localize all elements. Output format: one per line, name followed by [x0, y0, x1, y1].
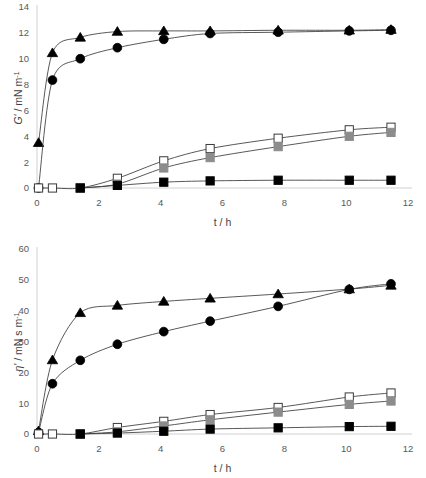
- x-tick-label: 12: [403, 443, 414, 454]
- data-point-marker: [206, 425, 214, 433]
- series-line: [80, 426, 391, 434]
- data-point-marker: [48, 430, 56, 438]
- series-filled-triangle: [33, 25, 396, 147]
- y-tick-label: 8: [24, 79, 29, 90]
- series-line: [39, 284, 391, 433]
- series-open-square: [34, 123, 395, 192]
- y-tick-label: 6: [24, 105, 29, 116]
- data-point-marker: [160, 427, 168, 435]
- data-point-marker: [47, 48, 57, 57]
- data-point-marker: [387, 422, 395, 430]
- data-point-marker: [206, 29, 215, 38]
- series-line: [80, 132, 391, 188]
- data-point-marker: [113, 181, 121, 189]
- data-point-marker: [76, 54, 85, 63]
- data-point-marker: [113, 429, 121, 437]
- x-axis-title: t / h: [214, 216, 232, 228]
- y-tick-label: 14: [18, 1, 29, 12]
- x-axis-title: t / h: [214, 462, 232, 474]
- data-point-marker: [34, 430, 42, 438]
- x-tick-label: 4: [158, 197, 163, 208]
- data-point-marker: [48, 76, 57, 85]
- data-point-marker: [206, 177, 214, 185]
- x-tick-label: 12: [403, 197, 414, 208]
- data-point-marker: [274, 28, 283, 37]
- data-point-marker: [33, 138, 43, 147]
- data-point-marker: [345, 27, 354, 36]
- data-point-marker: [48, 184, 56, 192]
- data-point-marker: [76, 184, 84, 192]
- series-filled-square: [76, 176, 395, 192]
- x-tick-label: 4: [158, 443, 163, 454]
- x-tick-label: 0: [34, 443, 39, 454]
- data-point-marker: [206, 154, 214, 162]
- data-point-marker: [274, 176, 282, 184]
- y-tick-label: 0: [24, 428, 29, 439]
- data-point-marker: [206, 317, 215, 326]
- data-point-marker: [387, 397, 395, 405]
- y-tick-label: 10: [18, 53, 29, 64]
- series-line: [39, 393, 391, 434]
- data-point-marker: [345, 423, 353, 431]
- data-point-marker: [274, 143, 282, 151]
- y-axis-title: G' / mN m-1: [12, 71, 24, 124]
- x-tick-label: 2: [96, 443, 101, 454]
- x-tick-label: 6: [220, 197, 225, 208]
- y-tick-label: 50: [18, 274, 29, 285]
- data-point-marker: [387, 279, 396, 288]
- series-filled-circle: [34, 279, 395, 436]
- series-filled-circle: [34, 26, 395, 193]
- x-tick-label: 8: [282, 197, 287, 208]
- x-tick-label: 10: [341, 197, 352, 208]
- chart-svg: 02468101214024681012t / hG' / mN m-1: [0, 0, 426, 240]
- x-tick-label: 6: [220, 443, 225, 454]
- series-open-square: [34, 389, 395, 438]
- y-tick-label: 2: [24, 157, 29, 168]
- data-point-marker: [160, 178, 168, 186]
- series-line: [80, 401, 391, 434]
- data-point-marker: [387, 26, 396, 35]
- y-tick-label: 12: [18, 27, 29, 38]
- data-point-marker: [113, 43, 122, 52]
- data-point-marker: [274, 134, 282, 142]
- data-point-marker: [75, 32, 85, 41]
- data-point-marker: [206, 416, 214, 424]
- data-point-marker: [159, 327, 168, 336]
- data-point-marker: [34, 184, 42, 192]
- series-line: [39, 30, 391, 188]
- y-tick-label: 10: [18, 398, 29, 409]
- y-tick-label: 60: [18, 243, 29, 254]
- data-point-marker: [345, 400, 353, 408]
- data-point-marker: [345, 285, 354, 294]
- y-tick-label: 40: [18, 305, 29, 316]
- x-tick-label: 2: [96, 197, 101, 208]
- data-point-marker: [345, 132, 353, 140]
- data-point-marker: [387, 128, 395, 136]
- data-point-marker: [274, 408, 282, 416]
- x-tick-label: 10: [341, 443, 352, 454]
- data-point-marker: [159, 26, 169, 35]
- series-filled-square: [76, 422, 395, 438]
- data-point-marker: [76, 356, 85, 365]
- chart-svg: 0102030405060024681012t / hη' / mN s m-1: [0, 240, 426, 478]
- data-point-marker: [160, 164, 168, 172]
- data-point-marker: [345, 176, 353, 184]
- chart-panel-bottom: 0102030405060024681012t / hη' / mN s m-1: [0, 240, 426, 478]
- data-point-marker: [387, 389, 395, 397]
- data-point-marker: [113, 340, 122, 349]
- data-point-marker: [75, 308, 85, 317]
- data-point-marker: [387, 176, 395, 184]
- data-point-marker: [48, 379, 57, 388]
- y-tick-label: 0: [24, 182, 29, 193]
- series-line: [39, 127, 391, 188]
- figure-container: 02468101214024681012t / hG' / mN m-1 010…: [0, 0, 426, 478]
- data-point-marker: [274, 302, 283, 311]
- series-gray-square: [76, 397, 395, 438]
- series-line: [39, 285, 391, 431]
- data-point-marker: [274, 424, 282, 432]
- x-tick-label: 8: [282, 443, 287, 454]
- x-tick-label: 0: [34, 197, 39, 208]
- y-tick-label: 4: [24, 131, 29, 142]
- data-point-marker: [206, 144, 214, 152]
- series-line: [39, 30, 391, 143]
